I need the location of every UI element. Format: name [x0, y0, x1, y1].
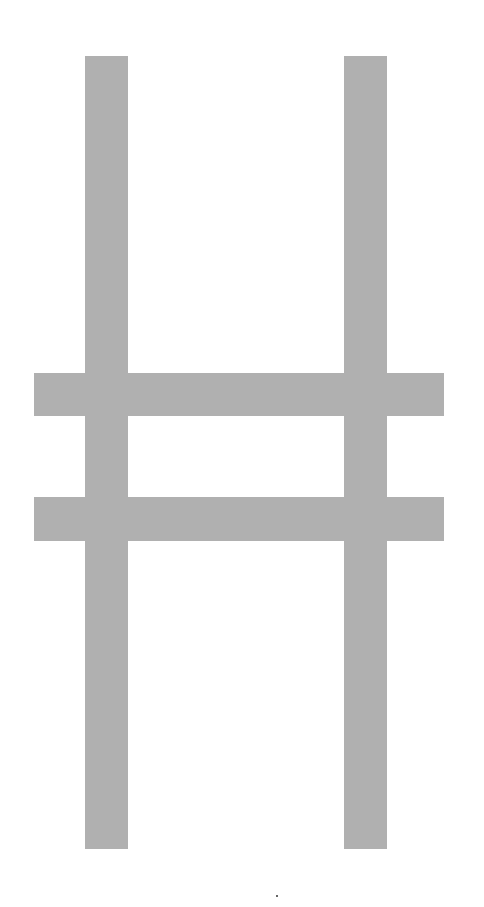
- vertical-bar-right: [344, 56, 387, 849]
- horizontal-bar-lower: [34, 497, 444, 541]
- vertical-bar-left: [85, 56, 128, 849]
- artifact-dot: [276, 895, 278, 897]
- horizontal-bar-upper: [34, 373, 444, 416]
